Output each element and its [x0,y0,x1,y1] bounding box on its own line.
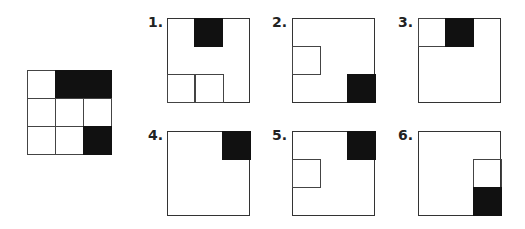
outlined-cell [418,18,448,48]
grid-cell-0-1 [55,70,84,99]
black-cell [347,74,376,103]
option-label-6: 6. [398,127,413,143]
black-cell [222,131,251,160]
option-box-3[interactable] [418,18,501,103]
black-cell [347,131,376,160]
grid-cell-1-2 [83,98,112,127]
black-cell [473,187,502,216]
option-label-4: 4. [148,127,163,143]
option-label-3: 3. [398,14,413,30]
option-label-1: 1. [148,14,163,30]
outlined-cell [473,159,503,189]
outlined-cell [167,74,197,104]
grid-cell-1-0 [27,98,56,127]
main-grid [27,70,111,154]
grid-cell-0-0 [27,70,56,99]
grid-cell-2-2 [83,126,112,155]
option-label-2: 2. [272,14,287,30]
option-box-4[interactable] [167,131,250,216]
option-box-6[interactable] [418,131,501,216]
outlined-cell [292,159,322,189]
outlined-cell [292,46,322,76]
option-box-5[interactable] [292,131,375,216]
option-label-5: 5. [272,127,287,143]
black-cell [194,18,223,47]
grid-cell-2-1 [55,126,84,155]
grid-cell-1-1 [55,98,84,127]
grid-cell-0-2 [83,70,112,99]
option-box-1[interactable] [167,18,250,103]
option-box-2[interactable] [292,18,375,103]
black-cell [445,18,474,47]
grid-cell-2-0 [27,126,56,155]
outlined-cell [194,74,224,104]
